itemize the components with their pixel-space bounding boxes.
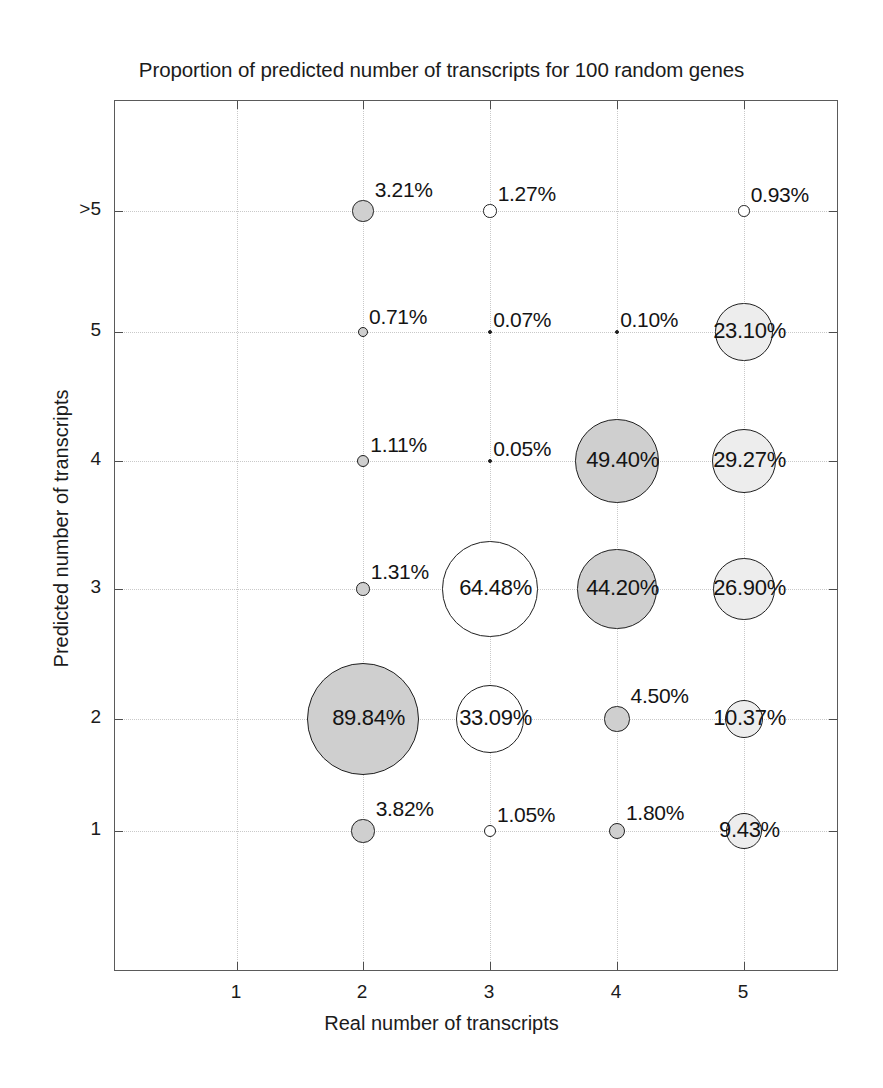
- bubble-value-label: 0.93%: [751, 183, 809, 207]
- bubble-value-label: 44.20%: [586, 575, 659, 601]
- gridline-vertical: [237, 101, 239, 970]
- x-axis-tick-top: [744, 101, 745, 109]
- x-axis-tick: [744, 962, 745, 970]
- x-axis-tick: [363, 962, 364, 970]
- bubble[interactable]: [738, 205, 749, 216]
- bubble[interactable]: [484, 825, 496, 837]
- bubble-value-label: 10.37%: [713, 705, 786, 731]
- bubble-value-label: 33.09%: [459, 705, 532, 731]
- bubble-value-label: 0.07%: [493, 308, 551, 332]
- bubble-value-label: 64.48%: [459, 575, 532, 601]
- x-tick-label-2: 2: [332, 981, 392, 1003]
- y-axis-tick-right: [829, 461, 837, 462]
- bubble[interactable]: [483, 204, 496, 217]
- bubble-value-label: 49.40%: [586, 447, 659, 473]
- y-tick-label-1: 1: [41, 818, 101, 840]
- bubble-value-label: 9.43%: [719, 817, 780, 843]
- y-axis-tick-right: [829, 332, 837, 333]
- bubble-value-label: 0.71%: [369, 305, 427, 329]
- plot-area: 3.21%1.27%0.93%0.71%0.07%0.10%23.10%1.11…: [114, 100, 838, 971]
- x-tick-label-5: 5: [713, 981, 773, 1003]
- y-axis-tick: [115, 589, 123, 590]
- y-axis-label: Predicted number of transcripts: [50, 249, 73, 809]
- bubble-value-label: 3.82%: [376, 797, 434, 821]
- x-tick-label-1: 1: [206, 981, 266, 1003]
- y-axis-tick: [115, 211, 123, 212]
- y-axis-tick-right: [829, 831, 837, 832]
- x-axis-tick: [490, 962, 491, 970]
- bubble[interactable]: [352, 200, 373, 221]
- bubble[interactable]: [609, 823, 625, 839]
- bubble-value-label: 1.27%: [498, 182, 556, 206]
- bubble-value-label: 89.84%: [332, 705, 405, 731]
- bubble-value-label: 0.10%: [620, 308, 678, 332]
- gridline-horizontal: [115, 211, 837, 213]
- bubble-value-label: 26.90%: [713, 575, 786, 601]
- bubble-chart-figure: Proportion of predicted number of transc…: [0, 0, 883, 1088]
- y-axis-tick: [115, 461, 123, 462]
- x-tick-label-4: 4: [586, 981, 646, 1003]
- x-axis-tick-top: [363, 101, 364, 109]
- y-axis-tick: [115, 831, 123, 832]
- x-axis-tick: [617, 962, 618, 970]
- bubble-value-label: 3.21%: [375, 178, 433, 202]
- bubble-value-label: 1.11%: [370, 433, 427, 457]
- y-axis-tick-right: [829, 719, 837, 720]
- bubble-value-label: 1.05%: [497, 803, 555, 827]
- x-axis-tick-top: [237, 101, 238, 109]
- bubble-value-label: 23.10%: [713, 318, 786, 344]
- bubble[interactable]: [357, 455, 370, 468]
- y-axis-tick-right: [829, 211, 837, 212]
- bubble[interactable]: [351, 819, 374, 842]
- gridline-vertical: [490, 101, 492, 970]
- x-axis-tick: [237, 962, 238, 970]
- x-axis-tick-top: [490, 101, 491, 109]
- x-axis-tick-top: [617, 101, 618, 109]
- y-tick-label-gt5: >5: [41, 198, 101, 220]
- bubble[interactable]: [356, 582, 370, 596]
- bubble[interactable]: [358, 327, 368, 337]
- bubble-value-label: 29.27%: [713, 447, 786, 473]
- bubble[interactable]: [604, 706, 629, 731]
- x-tick-label-3: 3: [459, 981, 519, 1003]
- x-axis-label: Real number of transcripts: [0, 1012, 883, 1035]
- gridline-vertical: [617, 101, 619, 970]
- bubble-value-label: 4.50%: [631, 684, 689, 708]
- bubble-value-label: 1.80%: [626, 801, 684, 825]
- y-axis-tick: [115, 332, 123, 333]
- bubble-value-label: 0.05%: [493, 437, 551, 461]
- y-axis-tick-right: [829, 589, 837, 590]
- chart-title: Proportion of predicted number of transc…: [0, 58, 883, 82]
- bubble-value-label: 1.31%: [371, 560, 429, 584]
- y-axis-tick: [115, 719, 123, 720]
